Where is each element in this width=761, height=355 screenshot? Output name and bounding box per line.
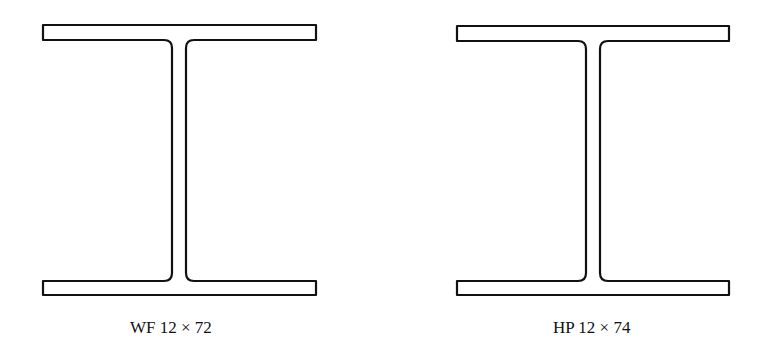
wf-section-outline xyxy=(43,25,316,295)
hp-section-label: HP 12 × 74 xyxy=(553,318,630,338)
beam-sections-diagram xyxy=(0,0,761,355)
hp-section-outline xyxy=(457,26,729,295)
wf-section-label: WF 12 × 72 xyxy=(130,318,212,338)
